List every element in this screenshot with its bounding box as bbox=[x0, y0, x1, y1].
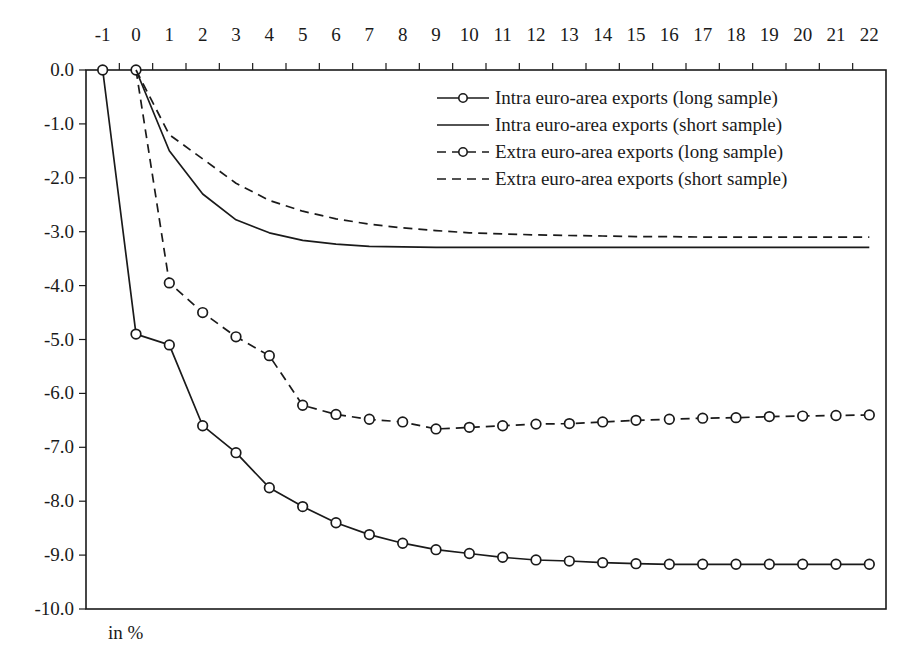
y-axis-tick-labels: 0.0-1.0-2.0-3.0-4.0-5.0-6.0-7.0-8.0-9.0-… bbox=[34, 59, 74, 619]
y-tick-label: -8.0 bbox=[44, 490, 74, 511]
data-point-marker bbox=[598, 417, 608, 427]
y-tick-label: -2.0 bbox=[44, 167, 74, 188]
x-tick-label: 5 bbox=[298, 24, 308, 45]
legend-marker-swatch bbox=[459, 94, 467, 102]
x-tick-label: 3 bbox=[231, 24, 241, 45]
x-tick-label: 15 bbox=[627, 24, 646, 45]
data-point-marker bbox=[331, 410, 341, 420]
data-point-marker bbox=[465, 549, 475, 559]
data-point-marker bbox=[798, 559, 808, 569]
y-tick-label: -1.0 bbox=[44, 113, 74, 134]
data-point-marker bbox=[331, 518, 341, 528]
legend-item: Intra euro-area exports (short sample) bbox=[437, 114, 782, 136]
data-point-marker bbox=[365, 414, 375, 424]
data-point-marker bbox=[865, 559, 875, 569]
y-tick-label: -5.0 bbox=[44, 329, 74, 350]
x-tick-label: 14 bbox=[593, 24, 613, 45]
data-point-marker bbox=[431, 424, 441, 434]
data-point-marker bbox=[498, 552, 508, 562]
data-point-marker bbox=[298, 400, 308, 410]
data-point-marker bbox=[131, 329, 141, 339]
data-point-marker bbox=[298, 502, 308, 512]
x-tick-label: 21 bbox=[827, 24, 846, 45]
x-tick-label: 7 bbox=[365, 24, 375, 45]
data-point-marker bbox=[165, 278, 175, 288]
x-tick-label: 2 bbox=[198, 24, 208, 45]
unit-label: in % bbox=[108, 622, 143, 644]
data-point-marker bbox=[831, 559, 841, 569]
x-tick-label: 12 bbox=[527, 24, 546, 45]
x-tick-label: 0 bbox=[131, 24, 141, 45]
data-point-marker bbox=[698, 413, 708, 423]
data-point-marker bbox=[231, 332, 241, 342]
data-point-marker bbox=[798, 411, 808, 421]
x-axis-tick-labels: -1012345678910111213141516171819202122 bbox=[95, 24, 879, 45]
x-tick-label: 11 bbox=[494, 24, 512, 45]
data-point-marker bbox=[531, 419, 541, 429]
data-point-marker bbox=[231, 448, 241, 458]
x-tick-label: 9 bbox=[431, 24, 441, 45]
y-tick-label: -3.0 bbox=[44, 221, 74, 242]
x-tick-label: 6 bbox=[331, 24, 341, 45]
x-tick-label: 20 bbox=[793, 24, 812, 45]
legend-marker-swatch bbox=[459, 148, 467, 156]
data-point-marker bbox=[398, 417, 408, 427]
legend-label: Extra euro-area exports (long sample) bbox=[495, 141, 783, 163]
y-tick-label: -6.0 bbox=[44, 382, 74, 403]
data-point-marker bbox=[731, 413, 741, 423]
line-chart: -1012345678910111213141516171819202122 0… bbox=[0, 0, 906, 671]
data-point-marker bbox=[665, 414, 675, 424]
x-tick-label: 17 bbox=[693, 24, 712, 45]
x-tick-label: 19 bbox=[760, 24, 779, 45]
legend-item: Extra euro-area exports (long sample) bbox=[437, 141, 783, 163]
data-point-marker bbox=[398, 538, 408, 548]
x-tick-label: 18 bbox=[727, 24, 746, 45]
y-tick-label: -10.0 bbox=[34, 598, 74, 619]
legend: Intra euro-area exports (long sample)Int… bbox=[437, 87, 787, 190]
data-point-marker bbox=[465, 423, 475, 433]
data-point-marker bbox=[198, 308, 208, 318]
data-point-marker bbox=[198, 421, 208, 431]
data-point-marker bbox=[698, 559, 708, 569]
y-tick-label: -9.0 bbox=[44, 544, 74, 565]
y-tick-label: 0.0 bbox=[50, 59, 74, 80]
data-point-marker bbox=[765, 412, 775, 422]
x-tick-label: 10 bbox=[460, 24, 479, 45]
legend-item: Intra euro-area exports (long sample) bbox=[437, 87, 778, 109]
data-point-marker bbox=[765, 559, 775, 569]
legend-item: Extra euro-area exports (short sample) bbox=[437, 168, 787, 190]
data-point-marker bbox=[98, 65, 108, 75]
data-point-marker bbox=[631, 416, 641, 426]
data-point-marker bbox=[531, 555, 541, 565]
data-point-marker bbox=[565, 556, 575, 566]
y-tick-label: -4.0 bbox=[44, 275, 74, 296]
x-tick-label: 22 bbox=[860, 24, 879, 45]
data-point-marker bbox=[265, 483, 275, 493]
x-tick-label: 1 bbox=[165, 24, 175, 45]
data-point-marker bbox=[598, 558, 608, 568]
data-point-marker bbox=[731, 559, 741, 569]
legend-label: Extra euro-area exports (short sample) bbox=[495, 168, 787, 190]
data-point-marker bbox=[865, 410, 875, 420]
legend-label: Intra euro-area exports (long sample) bbox=[495, 87, 778, 109]
data-point-marker bbox=[165, 340, 175, 350]
x-tick-label: 13 bbox=[560, 24, 579, 45]
data-point-marker bbox=[565, 419, 575, 429]
data-point-marker bbox=[498, 421, 508, 431]
data-point-marker bbox=[431, 545, 441, 555]
x-tick-label: -1 bbox=[95, 24, 111, 45]
x-tick-label: 16 bbox=[660, 24, 679, 45]
data-point-marker bbox=[265, 351, 275, 361]
data-point-marker bbox=[831, 411, 841, 421]
x-tick-label: 4 bbox=[265, 24, 275, 45]
data-point-marker bbox=[665, 559, 675, 569]
legend-label: Intra euro-area exports (short sample) bbox=[495, 114, 782, 136]
data-point-marker bbox=[631, 559, 641, 569]
data-point-marker bbox=[365, 530, 375, 540]
x-tick-label: 8 bbox=[398, 24, 408, 45]
y-tick-label: -7.0 bbox=[44, 436, 74, 457]
